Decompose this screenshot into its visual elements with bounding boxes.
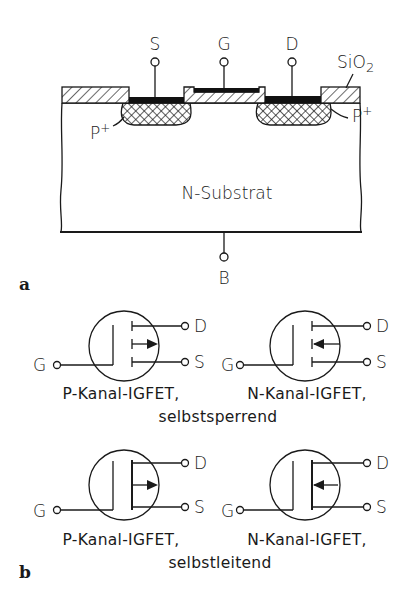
label-gate: G [217, 34, 230, 54]
source-metal [129, 97, 184, 103]
source-terminal-icon [364, 359, 371, 366]
cross-section: S G D B SiO2 P+ P+ N-Substrat [60, 34, 374, 288]
arrow-out-icon [147, 339, 158, 349]
subfigure-label-a: a [19, 274, 30, 294]
drain-terminal-icon [182, 460, 189, 467]
label-p-plus-left: P+ [90, 121, 110, 143]
label-drain: D [376, 453, 389, 473]
gate-terminal-icon [54, 362, 61, 369]
drain-terminal-icon [288, 58, 296, 66]
label-source: S [194, 497, 205, 517]
label-substrate: N-Substrat [182, 183, 273, 203]
label-sio2: SiO2 [337, 52, 374, 75]
symbol-p-channel-depletion: D S G [33, 450, 207, 521]
caption-p-depletion: P-Kanal-IGFET, [62, 531, 179, 549]
p-plus-source-region [121, 103, 191, 125]
label-gate: G [33, 501, 46, 521]
substrate-left-edge [60, 103, 62, 232]
label-source: S [376, 497, 387, 517]
label-drain: D [285, 34, 298, 54]
source-terminal-icon [364, 504, 371, 511]
gate-metal [194, 88, 259, 93]
caption-n-depletion: N-Kanal-IGFET, [247, 531, 367, 549]
field-oxide-left [62, 87, 129, 103]
igfet-figure: S G D B SiO2 P+ P+ N-Substrat a D S G [0, 0, 413, 597]
arrow-in-icon [313, 480, 324, 490]
caption-row1-mode: selbstsperrend [159, 408, 278, 426]
p-plus-left-leader [113, 117, 124, 126]
label-drain: D [194, 453, 207, 473]
label-drain: D [376, 316, 389, 336]
label-source: S [194, 352, 205, 372]
symbol-n-channel-enhancement: D S G [221, 311, 389, 381]
p-plus-right-leader [331, 109, 348, 118]
drain-terminal-icon [364, 323, 371, 330]
gate-terminal-icon [220, 58, 228, 66]
caption-n-enhancement: N-Kanal-IGFET, [247, 385, 367, 403]
source-terminal-icon [151, 58, 159, 66]
gate-terminal-icon [237, 507, 244, 514]
caption-p-enhancement: P-Kanal-IGFET, [62, 385, 179, 403]
source-terminal-icon [182, 359, 189, 366]
symbol-n-channel-depletion: D S G [221, 450, 389, 521]
source-terminal-icon [182, 504, 189, 511]
label-p-plus-right: P+ [352, 104, 372, 126]
label-gate: G [33, 355, 46, 375]
arrow-in-icon [313, 339, 324, 349]
arrow-out-icon [147, 480, 158, 490]
sio2-leader-line [346, 74, 353, 88]
p-plus-drain-region [256, 103, 331, 125]
caption-row2-mode: selbstleitend [168, 554, 271, 572]
label-gate: G [221, 355, 234, 375]
drain-terminal-icon [364, 460, 371, 467]
label-source: S [376, 352, 387, 372]
drain-metal [265, 96, 321, 103]
gate-terminal-icon [54, 507, 61, 514]
gate-terminal-icon [237, 362, 244, 369]
subfigure-label-b: b [19, 562, 31, 582]
symbol-p-channel-enhancement: D S G [33, 311, 207, 381]
label-drain: D [194, 316, 207, 336]
drain-terminal-icon [182, 323, 189, 330]
label-gate: G [221, 501, 234, 521]
label-bulk: B [218, 268, 229, 288]
field-oxide-right [321, 87, 360, 103]
symbol-circle [270, 311, 340, 381]
bulk-terminal-icon [220, 253, 228, 261]
label-source: S [150, 34, 161, 54]
